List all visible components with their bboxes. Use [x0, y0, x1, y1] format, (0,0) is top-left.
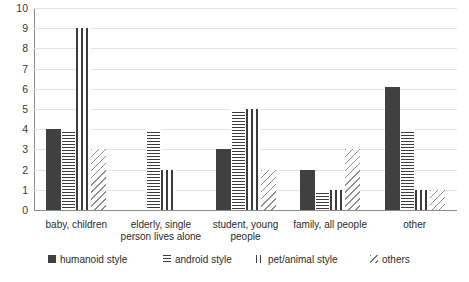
legend-label: android style: [175, 254, 232, 265]
y-axis-tick: 7: [0, 64, 28, 74]
bar: [261, 170, 276, 210]
bar: [161, 170, 176, 210]
legend-label: pet/animal style: [268, 254, 337, 265]
bar: [345, 149, 360, 210]
y-axis-tick-labels: 109876543210: [0, 8, 28, 210]
bar: [415, 190, 430, 210]
y-axis-tick: 4: [0, 124, 28, 134]
legend-item[interactable]: others: [370, 252, 410, 266]
y-axis-tick: 0: [0, 205, 28, 215]
bar: [330, 190, 345, 210]
bar: [300, 170, 315, 210]
bar: [91, 149, 106, 210]
y-axis-tick: 3: [0, 144, 28, 154]
bar-group: [300, 8, 360, 210]
y-axis-tick: 5: [0, 104, 28, 114]
y-axis-tick: 8: [0, 43, 28, 53]
x-axis-label: other: [372, 219, 457, 231]
bar: [216, 149, 231, 210]
legend-swatch-icon: [163, 255, 171, 263]
y-axis-tick: 1: [0, 185, 28, 195]
legend-swatch-icon: [370, 255, 378, 263]
x-axis-category-labels: baby, childrenelderly, single person liv…: [34, 219, 457, 247]
x-axis-label: baby, children: [34, 219, 119, 231]
bars-layer: [34, 8, 457, 210]
plot-area: [34, 8, 457, 210]
bar: [146, 129, 161, 210]
legend-label: others: [382, 254, 410, 265]
legend-item[interactable]: android style: [163, 252, 232, 266]
bar-group: [131, 8, 191, 210]
x-axis-label: family, all people: [288, 219, 373, 231]
bar: [315, 190, 330, 210]
legend-label: humanoid style: [60, 254, 127, 265]
legend-item[interactable]: pet/animal style: [256, 252, 337, 266]
bar: [61, 129, 76, 210]
bar-group: [216, 8, 276, 210]
bar-group: [46, 8, 106, 210]
bar: [400, 129, 415, 210]
x-axis-baseline: [34, 210, 457, 211]
legend-item[interactable]: humanoid style: [48, 252, 127, 266]
y-axis-tick: 6: [0, 84, 28, 94]
bar: [231, 109, 246, 210]
chart-legend: humanoid styleandroid stylepet/animal st…: [0, 252, 469, 270]
bar: [430, 190, 445, 210]
plot-wrapper: 109876543210: [0, 8, 469, 218]
x-axis-label: student, young people: [203, 219, 288, 243]
bar: [46, 129, 61, 210]
y-axis-tick: 10: [0, 3, 28, 13]
bar: [385, 87, 400, 210]
legend-swatch-icon: [48, 255, 56, 263]
bar: [76, 28, 91, 210]
y-axis-tick: 2: [0, 165, 28, 175]
bar: [246, 109, 261, 210]
bar-group: [385, 8, 445, 210]
legend-swatch-icon: [256, 255, 264, 263]
x-axis-label: elderly, single person lives alone: [119, 219, 204, 243]
bar-chart: 109876543210 baby, childrenelderly, sing…: [0, 0, 469, 282]
y-axis-tick: 9: [0, 23, 28, 33]
